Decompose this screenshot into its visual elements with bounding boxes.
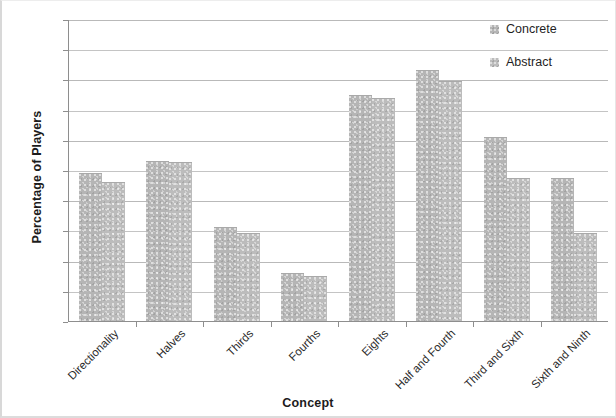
bar-group bbox=[281, 20, 327, 322]
x-tick-mark bbox=[473, 322, 474, 327]
x-tick-mark bbox=[338, 322, 339, 327]
bar-group bbox=[146, 20, 192, 322]
bar-abstract bbox=[102, 182, 125, 322]
x-tick-mark bbox=[136, 322, 137, 327]
bar-concrete bbox=[416, 70, 439, 322]
bar-abstract bbox=[372, 98, 395, 322]
x-tick-label-text: Half and Fourth bbox=[393, 327, 458, 392]
legend: ConcreteAbstract bbox=[490, 22, 557, 88]
x-tick-mark bbox=[271, 322, 272, 327]
x-axis-title: Concept bbox=[0, 396, 616, 410]
x-tick-label-text: Sixth and Ninth bbox=[529, 327, 593, 391]
x-tick-mark bbox=[203, 322, 204, 327]
bar-group bbox=[79, 20, 125, 322]
legend-label: Concrete bbox=[506, 22, 557, 36]
bar-concrete bbox=[349, 95, 372, 323]
x-tick-label-text: Halves bbox=[154, 327, 187, 360]
y-axis-title: Percentage of Players bbox=[30, 62, 44, 292]
bar-group bbox=[214, 20, 260, 322]
x-tick-label-text: Directionality bbox=[65, 327, 120, 382]
legend-item-concrete: Concrete bbox=[490, 22, 557, 36]
legend-swatch-icon bbox=[490, 58, 499, 67]
x-tick-label-text: Fourths bbox=[287, 327, 323, 363]
x-tick-label-text: Eights bbox=[359, 327, 390, 358]
bar-abstract bbox=[304, 276, 327, 322]
bar-group bbox=[416, 20, 462, 322]
bar-abstract bbox=[439, 81, 462, 322]
y-tick-mark-0 bbox=[63, 322, 68, 323]
bar-abstract bbox=[169, 162, 192, 322]
bar-concrete bbox=[281, 273, 304, 322]
bar-abstract bbox=[237, 233, 260, 322]
x-tick-mark bbox=[406, 322, 407, 327]
bar-concrete bbox=[79, 173, 102, 322]
x-tick-label-text: Thirds bbox=[224, 327, 255, 358]
legend-item-abstract: Abstract bbox=[490, 55, 557, 69]
bar-abstract bbox=[507, 178, 530, 322]
y-axis-line bbox=[68, 20, 69, 322]
legend-swatch-icon bbox=[490, 25, 499, 34]
legend-label: Abstract bbox=[506, 55, 552, 69]
x-tick-label-text: Third and Sixth bbox=[462, 327, 525, 390]
x-tick-mark bbox=[541, 322, 542, 327]
bar-concrete bbox=[214, 227, 237, 322]
bar-chart-figure: Percentage of Players 100908070605040302… bbox=[0, 0, 616, 418]
bar-group bbox=[349, 20, 395, 322]
